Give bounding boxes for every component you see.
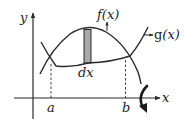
rotation-arrowhead-icon: [139, 103, 147, 113]
y-axis-label: y: [19, 10, 28, 25]
f-curve-label-arg: (x): [102, 7, 119, 22]
g-curve-label-arg: (x): [162, 27, 179, 42]
f-curve-label: f(x): [96, 7, 119, 22]
dx-strip: [84, 30, 91, 64]
dx-label: dx: [78, 65, 94, 80]
g-curve-label-name: g: [154, 27, 162, 42]
g-curve-label: g(x): [154, 27, 180, 42]
x-axis-label: x: [162, 90, 170, 105]
lower-bound-label: a: [47, 100, 55, 115]
upper-bound-label: b: [122, 100, 130, 115]
area-between-curves-diagram: y x f(x) g(x) dx a b: [0, 0, 186, 123]
